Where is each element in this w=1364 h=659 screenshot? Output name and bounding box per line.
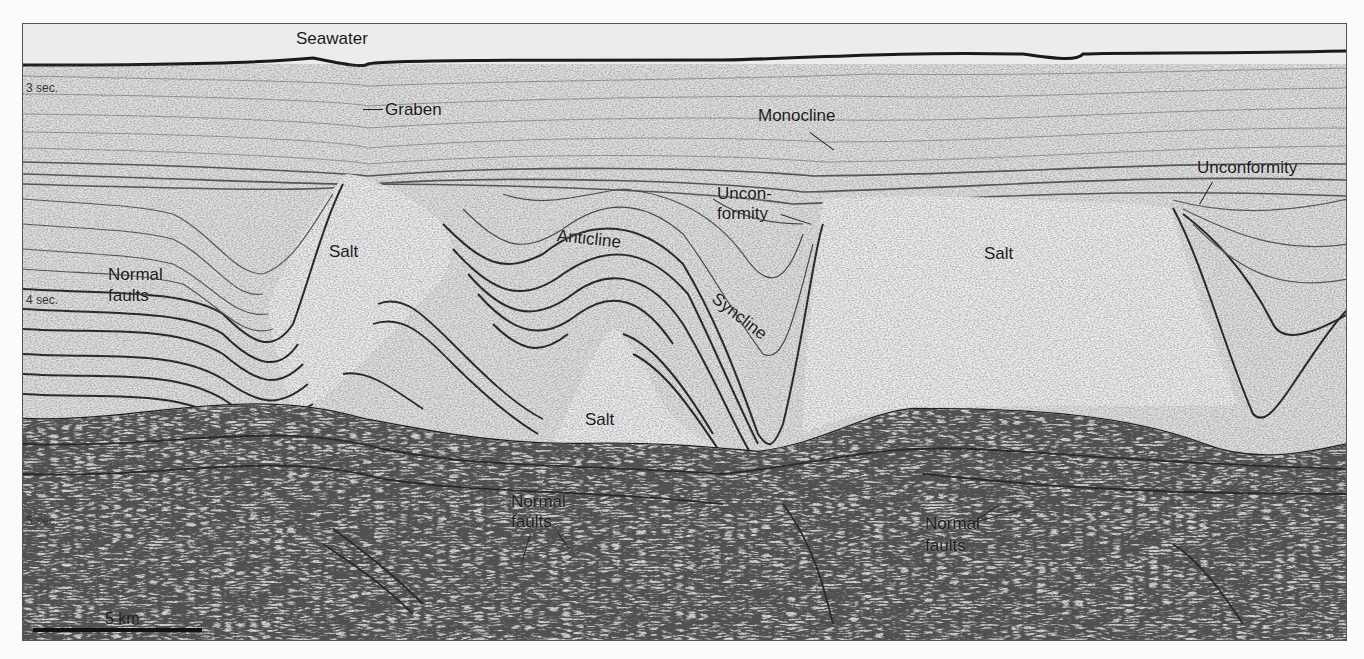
label-normal-faults-left-2: faults bbox=[108, 286, 149, 305]
label-salt-left: Salt bbox=[329, 242, 358, 261]
seismic-reflection-image bbox=[23, 24, 1347, 641]
label-normal-faults-right-1: Normal bbox=[925, 514, 980, 533]
label-salt-right: Salt bbox=[984, 244, 1013, 263]
time-tick-5sec: 5 sec. bbox=[26, 514, 58, 528]
label-salt-center: Salt bbox=[585, 410, 614, 429]
seismic-section-figure: 3 sec. 4 sec. 5 sec. Seawater Graben Mon… bbox=[22, 23, 1347, 641]
scale-bar bbox=[33, 628, 202, 632]
time-tick-3sec: 3 sec. bbox=[26, 81, 58, 95]
label-graben: Graben bbox=[385, 100, 442, 119]
label-normal-faults-left-1: Normal bbox=[108, 265, 163, 284]
label-normal-faults-center-2: faults bbox=[511, 512, 552, 531]
scale-bar-label: 5 km bbox=[105, 610, 140, 628]
label-normal-faults-center-1: Normal bbox=[511, 492, 566, 511]
time-tick-4sec: 4 sec. bbox=[26, 293, 58, 307]
label-unconformity-right: Unconformity bbox=[1197, 158, 1297, 177]
label-seawater: Seawater bbox=[296, 29, 368, 48]
graben-leader-line bbox=[363, 109, 383, 110]
label-unconformity-mid-2: formity bbox=[717, 204, 768, 223]
label-normal-faults-right-2: faults bbox=[925, 536, 966, 555]
label-unconformity-mid-1: Uncon- bbox=[717, 184, 772, 203]
label-monocline: Monocline bbox=[758, 106, 836, 125]
